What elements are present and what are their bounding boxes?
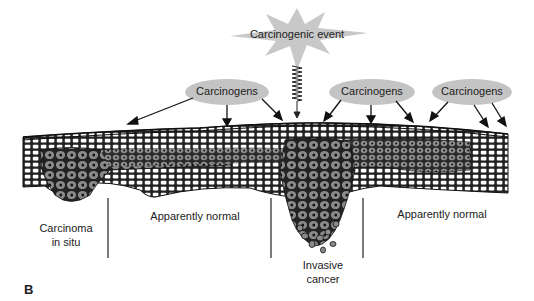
carcinogenic-event-label: Carcinogenic event bbox=[230, 28, 364, 40]
spring-icon bbox=[292, 66, 302, 118]
invasive-cancer-label: Invasive cancer bbox=[297, 258, 349, 286]
apparently-normal-left-label: Apparently normal bbox=[140, 209, 250, 223]
panel-label: B bbox=[24, 282, 33, 297]
carcinogens-label-1: Carcinogens bbox=[185, 85, 269, 97]
carcinogens-label-3: Carcinogens bbox=[432, 85, 512, 97]
apparently-normal-right-label: Apparently normal bbox=[386, 207, 498, 221]
carcinogens-label-2: Carcinogens bbox=[329, 85, 415, 97]
carcinoma-in-situ-label: Carcinoma in situ bbox=[30, 221, 102, 249]
carcinogenesis-diagram bbox=[0, 0, 534, 301]
